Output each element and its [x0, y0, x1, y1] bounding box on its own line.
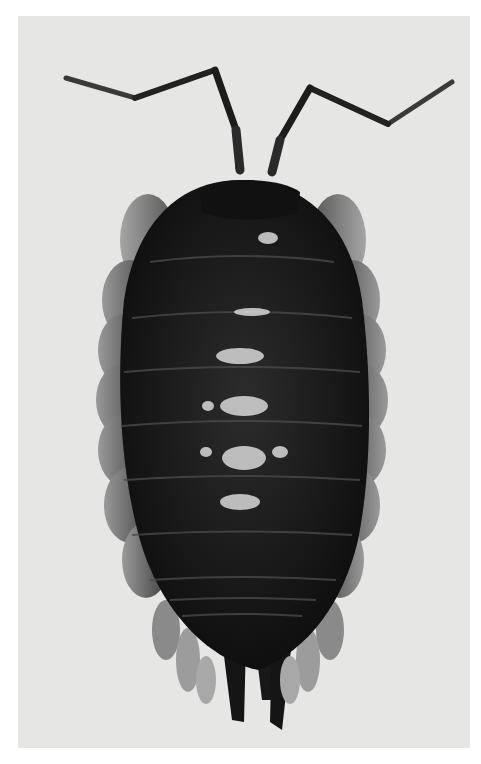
isopod-body — [120, 180, 369, 670]
right-antenna — [272, 82, 452, 172]
left-antenna — [66, 70, 240, 170]
isopod-head — [200, 180, 300, 220]
isopod-photo — [0, 0, 481, 764]
